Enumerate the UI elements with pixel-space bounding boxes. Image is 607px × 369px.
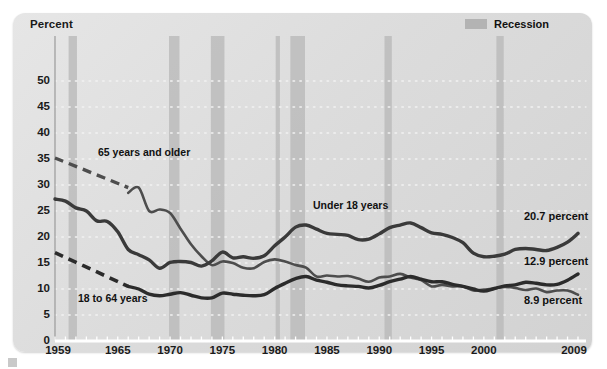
series-line-18-to-64-dashed <box>55 253 128 287</box>
series-label-18-to-64: 18 to 64 years <box>78 292 147 304</box>
y-axis-tick-label: 30 <box>26 178 50 190</box>
x-axis-tick-label: 1975 <box>198 344 246 356</box>
x-axis-tick-label: 2000 <box>460 344 508 356</box>
x-axis-tick-label: 1965 <box>94 344 142 356</box>
y-axis-tick-label: 40 <box>26 126 50 138</box>
recession-band <box>384 36 391 341</box>
y-axis-tick-label: 45 <box>26 100 50 112</box>
chart-plot-area <box>0 0 607 369</box>
y-axis-tick-label: 5 <box>26 308 50 320</box>
recession-band <box>69 36 77 341</box>
y-axis-tick-label: 15 <box>26 256 50 268</box>
recession-band <box>496 36 503 341</box>
chart-figure: Percent 50454035302520151050 19591965197… <box>0 0 607 369</box>
x-axis-tick-label: 1959 <box>34 344 82 356</box>
recession-band <box>276 36 280 341</box>
y-axis-tick-label: 50 <box>26 74 50 86</box>
x-axis-tick-label: 1995 <box>408 344 456 356</box>
y-axis-tick-label: 20 <box>26 230 50 242</box>
recession-band <box>290 36 305 341</box>
end-label-65-and-older: 8.9 percent <box>524 294 582 306</box>
end-label-under-18: 20.7 percent <box>524 210 588 222</box>
y-axis-tick-label: 10 <box>26 282 50 294</box>
x-axis-tick-label: 2009 <box>550 344 598 356</box>
legend-label-recession: Recession <box>494 18 549 30</box>
y-axis-tick-label: 25 <box>26 204 50 216</box>
x-axis-tick-label: 1985 <box>303 344 351 356</box>
x-axis-tick-label: 1970 <box>146 344 194 356</box>
x-axis-tick-label: 1980 <box>251 344 299 356</box>
series-label-under-18: Under 18 years <box>313 199 388 211</box>
legend: Recession <box>465 18 549 30</box>
series-label-65-and-older: 65 years and older <box>98 146 190 158</box>
end-label-18-to-64: 12.9 percent <box>524 255 588 267</box>
x-axis-tick-label: 1990 <box>355 344 403 356</box>
corner-marker <box>8 358 17 367</box>
series-line-65-and-older-dashed <box>55 158 128 188</box>
y-axis-tick-label: 35 <box>26 152 50 164</box>
y-axis-title: Percent <box>30 18 73 30</box>
recession-swatch-icon <box>465 19 487 29</box>
